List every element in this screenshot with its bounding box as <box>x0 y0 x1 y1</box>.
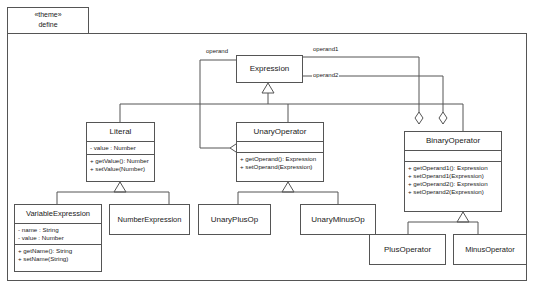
operation-unaryoperator-setoperand: + setOperand(Expression) <box>240 163 320 171</box>
attributes-compartment-literal: - value : Number <box>87 141 154 154</box>
operations-compartment-variableexpression: + getName(): String + setName(String) <box>15 244 101 265</box>
attribute-variableexpression-value: - value : Number <box>18 234 98 242</box>
class-box-binaryoperator[interactable]: BinaryOperator + getOperand1(): Expressi… <box>404 131 502 212</box>
association-label-operand2: operand2 <box>312 72 339 78</box>
class-box-unaryoperator[interactable]: UnaryOperator + getOperand(): Expression… <box>236 122 324 182</box>
class-name-variableexpression: VariableExpression <box>15 205 101 223</box>
operations-compartment-unaryoperator: + getOperand(): Expression + setOperand(… <box>237 152 323 173</box>
class-box-literal[interactable]: Literal - value : Number + getValue(): N… <box>86 122 155 182</box>
class-box-numberexpression[interactable]: NumberExpression <box>109 204 190 235</box>
class-name-plusoperator: PlusOperator <box>370 235 445 259</box>
operation-binaryoperator-setoperand2: + setOperand2(Expression) <box>408 188 498 196</box>
package-frame-tab[interactable]: «theme» define <box>7 7 89 34</box>
uml-diagram-canvas: «theme» define <box>0 0 534 296</box>
class-box-unaryplusop[interactable]: UnaryPlusOp <box>198 204 271 235</box>
class-box-expression[interactable]: Expression <box>236 55 303 83</box>
operation-binaryoperator-setoperand1: + setOperand1(Expression) <box>408 172 498 180</box>
class-box-plusoperator[interactable]: PlusOperator <box>369 234 446 265</box>
class-name-unaryplusop: UnaryPlusOp <box>199 205 270 229</box>
attribute-literal-value: - value : Number <box>90 144 151 152</box>
class-box-unaryminusop[interactable]: UnaryMinusOp <box>300 204 376 235</box>
class-name-unaryoperator: UnaryOperator <box>237 123 323 141</box>
operation-variableexpression-setname: + setName(String) <box>18 255 98 263</box>
class-name-literal: Literal <box>87 123 154 141</box>
class-name-binaryoperator: BinaryOperator <box>405 132 501 150</box>
operation-binaryoperator-getoperand1: + getOperand1(): Expression <box>408 164 498 172</box>
attribute-variableexpression-name: - name : String <box>18 226 98 234</box>
attributes-compartment-unaryoperator <box>237 141 323 147</box>
package-name: define <box>8 20 88 30</box>
association-label-operand: operand <box>205 48 229 54</box>
class-name-numberexpression: NumberExpression <box>110 205 189 229</box>
class-name-minusoperator: MinusOperator <box>454 235 526 259</box>
operation-literal-getvalue: + getValue(): Number <box>90 157 151 165</box>
attributes-compartment-binaryoperator <box>405 150 501 156</box>
operation-variableexpression-getname: + getName(): String <box>18 247 98 255</box>
class-name-unaryminusop: UnaryMinusOp <box>301 205 375 229</box>
attributes-compartment-variableexpression: - name : String - value : Number <box>15 223 101 244</box>
class-box-minusoperator[interactable]: MinusOperator <box>453 234 527 265</box>
operation-unaryoperator-getoperand: + getOperand(): Expression <box>240 155 320 163</box>
class-box-variableexpression[interactable]: VariableExpression - name : String - val… <box>14 204 102 272</box>
association-label-operand1: operand1 <box>312 46 339 52</box>
class-name-expression: Expression <box>237 56 302 78</box>
operation-binaryoperator-getoperand2: + getOperand2(): Expression <box>408 180 498 188</box>
operation-literal-setvalue: + setValue(Number) <box>90 165 151 173</box>
operations-compartment-literal: + getValue(): Number + setValue(Number) <box>87 154 154 175</box>
package-stereotype: «theme» <box>8 10 88 20</box>
operations-compartment-binaryoperator: + getOperand1(): Expression + setOperand… <box>405 161 501 198</box>
